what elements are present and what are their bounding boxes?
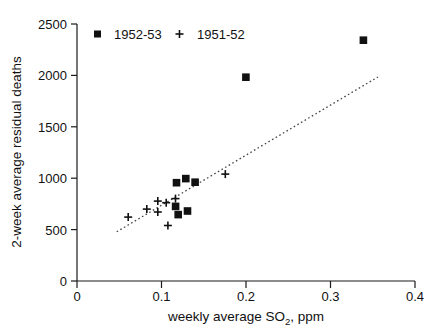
y-axis-title: 2-week average residual deaths	[9, 56, 24, 248]
x-axis-ticks	[77, 281, 415, 288]
data-point-plus	[221, 170, 229, 178]
y-tick-label-2000: 2000	[38, 68, 67, 83]
data-point-square	[174, 211, 182, 219]
data-point-square	[191, 178, 199, 186]
y-tick-label-2500: 2500	[38, 17, 67, 32]
y-axis-ticks	[71, 24, 77, 281]
x-tick-label-0.1: 0.1	[152, 289, 170, 304]
x-axis-tick-labels: 0 0.1 0.2 0.3 0.4	[73, 289, 424, 304]
data-point-plus	[164, 222, 172, 230]
legend-label-1952-53: 1952-53	[114, 27, 162, 42]
data-point-square	[360, 36, 368, 44]
data-point-square	[173, 179, 181, 187]
series-1952-53	[172, 36, 367, 218]
x-axis-title: weekly average SO2, ppm	[167, 309, 324, 327]
data-point-square	[182, 175, 190, 183]
scatter-plot: 2500 2000 1500 1000 500 0 0 0.1 0.2 0.3 …	[0, 0, 442, 332]
data-point-plus	[162, 199, 170, 207]
data-point-plus	[172, 195, 180, 203]
x-tick-label-0.4: 0.4	[406, 289, 424, 304]
x-axis-title-main: weekly average SO	[167, 309, 285, 324]
chart-figure: 2500 2000 1500 1000 500 0 0 0.1 0.2 0.3 …	[0, 0, 442, 332]
data-point-square	[184, 207, 192, 215]
y-axis-tick-labels: 2500 2000 1500 1000 500 0	[38, 17, 67, 289]
x-tick-label-0: 0	[73, 289, 80, 304]
data-point-square	[172, 203, 180, 211]
data-point-plus	[124, 213, 132, 221]
trend-line	[117, 77, 378, 232]
legend-label-1951-52: 1951-52	[197, 27, 245, 42]
y-tick-label-1500: 1500	[38, 120, 67, 135]
y-tick-label-1000: 1000	[38, 171, 67, 186]
y-tick-label-500: 500	[45, 223, 67, 238]
x-axis-title-tail: , ppm	[290, 309, 324, 324]
legend: 1952-53 1951-52	[94, 27, 245, 42]
data-point-plus	[154, 197, 162, 205]
x-tick-label-0.3: 0.3	[321, 289, 339, 304]
y-tick-label-0: 0	[60, 274, 67, 289]
data-point-square	[242, 73, 250, 81]
x-tick-label-0.2: 0.2	[237, 289, 255, 304]
legend-marker-square	[94, 31, 101, 38]
legend-marker-plus	[176, 30, 184, 38]
data-point-plus	[154, 208, 162, 216]
